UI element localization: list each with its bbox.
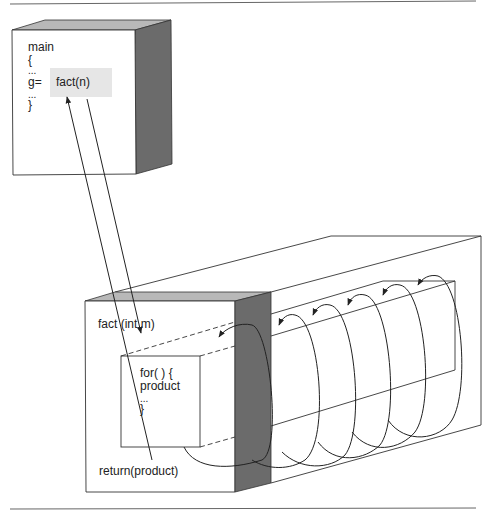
fact-call-text: fact(n) bbox=[56, 76, 90, 89]
loop-close-brace: } bbox=[140, 403, 144, 416]
fact-box-side-face bbox=[235, 292, 271, 492]
main-box-side-face bbox=[135, 20, 172, 174]
return-statement: return(product) bbox=[99, 465, 178, 478]
fact-signature: fact (int m) bbox=[98, 318, 155, 331]
main-close-brace: } bbox=[28, 99, 32, 112]
top-rule bbox=[10, 1, 476, 4]
bottom-rule bbox=[10, 508, 476, 509]
